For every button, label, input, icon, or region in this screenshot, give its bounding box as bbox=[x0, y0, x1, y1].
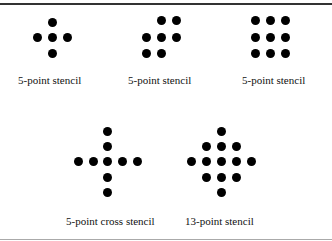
top-rule bbox=[0, 3, 332, 5]
stencil-point-dot bbox=[48, 33, 57, 42]
stencil-point-dot bbox=[281, 16, 290, 25]
stencil-point-dot bbox=[266, 33, 275, 42]
stencil-point-dot bbox=[187, 157, 196, 166]
stencil-point-dot bbox=[217, 142, 226, 151]
stencil-label-3: 5-point stencil bbox=[242, 74, 305, 86]
stencil-point-dot bbox=[217, 173, 226, 182]
stencil-point-dot bbox=[63, 33, 72, 42]
stencil-point-dot bbox=[202, 142, 211, 151]
stencil-point-dot bbox=[118, 157, 127, 166]
stencil-point-dot bbox=[157, 33, 166, 42]
stencil-point-dot bbox=[157, 49, 166, 58]
stencil-point-dot bbox=[232, 142, 241, 151]
stencil-point-dot bbox=[48, 49, 57, 58]
stencil-point-dot bbox=[251, 49, 260, 58]
stencil-point-dot bbox=[103, 173, 112, 182]
stencil-point-dot bbox=[251, 16, 260, 25]
stencil-point-dot bbox=[103, 157, 112, 166]
stencil-point-dot bbox=[232, 157, 241, 166]
stencil-point-dot bbox=[103, 127, 112, 136]
stencil-point-dot bbox=[48, 18, 57, 27]
stencil-point-dot bbox=[103, 188, 112, 197]
stencil-point-dot bbox=[103, 142, 112, 151]
bottom-rule bbox=[0, 239, 332, 240]
stencil-point-dot bbox=[33, 33, 42, 42]
stencil-point-dot bbox=[202, 173, 211, 182]
stencil-point-dot bbox=[266, 16, 275, 25]
stencil-point-dot bbox=[202, 157, 211, 166]
stencil-label-cross: 5-point cross stencil bbox=[66, 215, 155, 227]
stencil-point-dot bbox=[172, 16, 181, 25]
stencil-label-2: 5-point stencil bbox=[128, 74, 191, 86]
stencil-point-dot bbox=[281, 49, 290, 58]
stencil-point-dot bbox=[251, 33, 260, 42]
stencil-point-dot bbox=[281, 33, 290, 42]
stencil-point-dot bbox=[74, 157, 83, 166]
stencil-point-dot bbox=[172, 33, 181, 42]
stencil-label-1: 5-point stencil bbox=[18, 74, 81, 86]
stencil-point-dot bbox=[232, 173, 241, 182]
stencil-point-dot bbox=[89, 157, 98, 166]
stencil-point-dot bbox=[142, 33, 151, 42]
stencil-point-dot bbox=[217, 127, 226, 136]
stencil-point-dot bbox=[266, 49, 275, 58]
stencil-point-dot bbox=[217, 157, 226, 166]
stencil-point-dot bbox=[157, 16, 166, 25]
stencil-point-dot bbox=[217, 188, 226, 197]
stencil-point-dot bbox=[247, 157, 256, 166]
stencil-point-dot bbox=[142, 49, 151, 58]
stencil-label-13pt: 13-point stencil bbox=[185, 215, 254, 227]
stencil-point-dot bbox=[133, 157, 142, 166]
